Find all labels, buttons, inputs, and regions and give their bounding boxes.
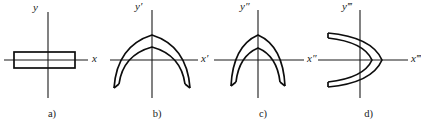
panel-d: y‴ x‴ d) bbox=[316, 0, 421, 123]
panel-c-caption: c) bbox=[210, 108, 316, 119]
panel-c-graphic bbox=[210, 0, 316, 100]
panel-d-caption: d) bbox=[316, 108, 421, 119]
panel-b-graphic bbox=[104, 0, 210, 100]
panel-a-caption: a) bbox=[0, 108, 104, 119]
panel-d-x-axis-label: x‴ bbox=[411, 53, 421, 64]
figure-container: y x a) y′ x′ b) bbox=[0, 0, 421, 123]
panel-a-graphic bbox=[0, 0, 104, 100]
panel-a: y x a) bbox=[0, 0, 104, 123]
panel-b: y′ x′ b) bbox=[104, 0, 210, 123]
panel-d-y-axis-label: y‴ bbox=[342, 1, 352, 12]
panel-a-x-axis-label: x bbox=[92, 53, 97, 64]
panel-b-y-axis-label: y′ bbox=[135, 1, 142, 12]
panel-b-x-axis-label: x′ bbox=[201, 53, 208, 64]
panel-a-y-axis-label: y bbox=[33, 2, 38, 13]
panel-c-y-axis-label: y″ bbox=[240, 1, 249, 12]
panel-b-caption: b) bbox=[104, 108, 210, 119]
panel-d-graphic bbox=[316, 0, 421, 100]
panel-c: y″ x″ c) bbox=[210, 0, 316, 123]
